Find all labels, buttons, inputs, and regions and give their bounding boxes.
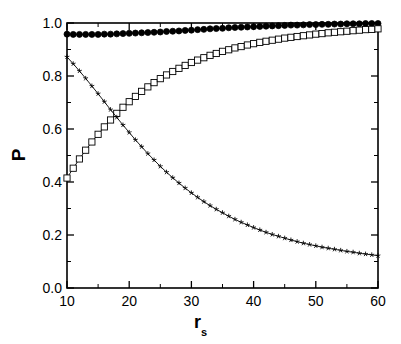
marker-star	[289, 238, 294, 243]
marker-open-square	[219, 48, 225, 54]
marker-open-square	[344, 28, 350, 34]
marker-open-square	[275, 36, 281, 42]
marker-open-square	[213, 50, 219, 56]
marker-filled-circle	[350, 21, 356, 27]
marker-star	[245, 222, 250, 227]
marker-filled-circle	[195, 27, 201, 33]
marker-open-square	[269, 37, 275, 43]
marker-open-square	[282, 35, 288, 41]
marker-filled-circle	[120, 31, 126, 37]
marker-open-square	[95, 131, 101, 137]
axis-ticks	[67, 23, 378, 288]
plot-frame	[67, 23, 378, 288]
marker-filled-circle	[70, 31, 76, 37]
marker-open-square	[170, 68, 176, 74]
marker-star	[233, 217, 238, 222]
marker-filled-circle	[201, 26, 207, 32]
marker-filled-circle	[238, 24, 244, 30]
marker-open-square	[257, 39, 263, 45]
marker-open-square	[64, 175, 70, 181]
marker-open-square	[244, 42, 250, 48]
marker-open-square	[362, 27, 368, 33]
marker-open-square	[151, 80, 157, 86]
marker-filled-circle	[307, 22, 313, 28]
marker-filled-circle	[344, 21, 350, 27]
plot-area	[0, 0, 401, 344]
marker-open-square	[263, 38, 269, 44]
marker-open-square	[201, 55, 207, 61]
marker-star	[332, 247, 337, 252]
marker-open-square	[331, 29, 337, 35]
marker-star	[345, 249, 350, 254]
marker-filled-circle	[64, 31, 70, 37]
marker-open-square	[83, 147, 89, 153]
marker-open-square	[251, 41, 257, 47]
marker-filled-circle	[275, 23, 281, 29]
marker-filled-circle	[300, 22, 306, 28]
marker-filled-circle	[263, 23, 269, 29]
marker-open-square	[369, 26, 375, 32]
marker-open-square	[313, 31, 319, 37]
marker-filled-circle	[288, 22, 294, 28]
marker-filled-circle	[269, 23, 275, 29]
marker-open-square	[375, 26, 381, 32]
marker-filled-circle	[157, 29, 163, 35]
marker-filled-circle	[338, 21, 344, 27]
marker-filled-circle	[89, 31, 95, 37]
marker-open-square	[107, 117, 113, 123]
marker-star	[295, 239, 300, 244]
marker-star	[307, 242, 312, 247]
marker-filled-circle	[356, 21, 362, 27]
marker-filled-circle	[226, 25, 232, 31]
marker-open-square	[226, 47, 232, 53]
marker-filled-circle	[114, 31, 120, 37]
marker-filled-circle	[213, 26, 219, 32]
marker-star	[264, 230, 269, 235]
marker-filled-circle	[164, 28, 170, 34]
marker-filled-circle	[145, 30, 151, 36]
marker-open-square	[176, 65, 182, 71]
marker-star	[369, 252, 374, 257]
marker-star	[276, 234, 281, 239]
marker-filled-circle	[108, 31, 114, 37]
series-star-markers	[65, 54, 381, 257]
marker-open-square	[238, 43, 244, 49]
marker-open-square	[325, 30, 331, 36]
marker-filled-circle	[170, 28, 176, 34]
marker-filled-circle	[294, 22, 300, 28]
marker-filled-circle	[151, 29, 157, 35]
marker-filled-circle	[132, 30, 138, 36]
marker-open-square	[188, 59, 194, 65]
marker-open-square	[338, 29, 344, 35]
marker-open-square	[76, 156, 82, 162]
marker-open-square	[300, 33, 306, 39]
marker-filled-circle	[76, 31, 82, 37]
data-series-group	[64, 21, 381, 258]
marker-filled-circle	[139, 30, 145, 36]
marker-open-square	[195, 57, 201, 63]
marker-filled-circle	[126, 30, 132, 36]
marker-filled-circle	[207, 26, 213, 32]
figure-canvas: P rs 0.00.20.40.60.81.0 102030405060	[0, 0, 401, 344]
marker-filled-circle	[282, 22, 288, 28]
marker-filled-circle	[363, 21, 369, 27]
marker-filled-circle	[95, 31, 101, 37]
marker-open-square	[145, 84, 151, 90]
marker-open-square	[126, 99, 132, 105]
marker-open-square	[288, 34, 294, 40]
marker-filled-circle	[251, 24, 257, 30]
marker-open-square	[207, 52, 213, 58]
marker-filled-circle	[83, 31, 89, 37]
marker-open-square	[350, 28, 356, 34]
marker-star	[320, 245, 325, 250]
marker-open-square	[182, 62, 188, 68]
marker-star	[257, 227, 262, 232]
marker-filled-circle	[101, 31, 107, 37]
marker-star	[351, 250, 356, 255]
marker-open-square	[356, 27, 362, 33]
marker-open-square	[139, 88, 145, 94]
marker-open-square	[89, 139, 95, 145]
marker-open-square	[294, 33, 300, 39]
series-open-squares	[64, 26, 381, 181]
marker-open-square	[157, 76, 163, 82]
